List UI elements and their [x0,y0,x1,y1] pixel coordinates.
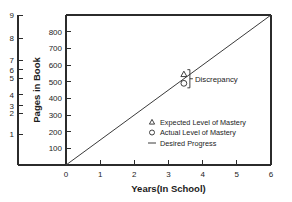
x-tick-label: 4 [200,170,205,179]
actual-mastery-marker [181,80,187,86]
levels-tick-label: 4 [10,91,15,100]
pages-tick-label: 400 [49,94,63,103]
legend-entry-label: Desired Progress [160,139,217,148]
pages-tick-label: 700 [49,44,63,53]
pages-tick-label: 800 [49,28,63,37]
levels-tick-label: 3 [10,102,15,111]
levels-tick-label: 6 [10,66,15,75]
levels-tick-label: 9 [10,11,15,20]
levels-tick-label: 1 [10,130,15,139]
x-tick-label: 2 [132,170,137,179]
x-tick-label: 3 [166,170,171,179]
legend-circle-icon [150,130,155,135]
x-tick-label: 0 [64,170,69,179]
expected-mastery-marker [181,71,187,76]
legend-entry-label: Actual Level of Mastery [160,128,236,137]
x-axis-title: Years(In School) [131,183,205,194]
x-tick-label: 5 [235,170,240,179]
pages-tick-label: 500 [49,78,63,87]
discrepancy-label: Discrepancy [195,75,238,84]
pages-tick-label: 100 [49,144,63,153]
levels-tick-label: 7 [10,56,15,65]
levels-tick-label: 5 [10,74,15,83]
x-tick-label: 6 [269,170,274,179]
levels-tick-label: 8 [10,34,15,43]
chart-figure: 1002003004005006007008001234567890123456… [0,0,292,202]
y-right-axis-title: Pages in Book [31,57,42,123]
legend-entry-label: Expected Level of Mastery [160,118,246,127]
discrepancy-bracket [187,70,190,88]
x-tick-label: 1 [98,170,103,179]
pages-tick-label: 300 [49,111,63,120]
pages-tick-label: 200 [49,128,63,137]
chart-canvas: 1002003004005006007008001234567890123456… [0,0,292,202]
pages-tick-label: 600 [49,61,63,70]
legend-triangle-icon [149,119,154,124]
